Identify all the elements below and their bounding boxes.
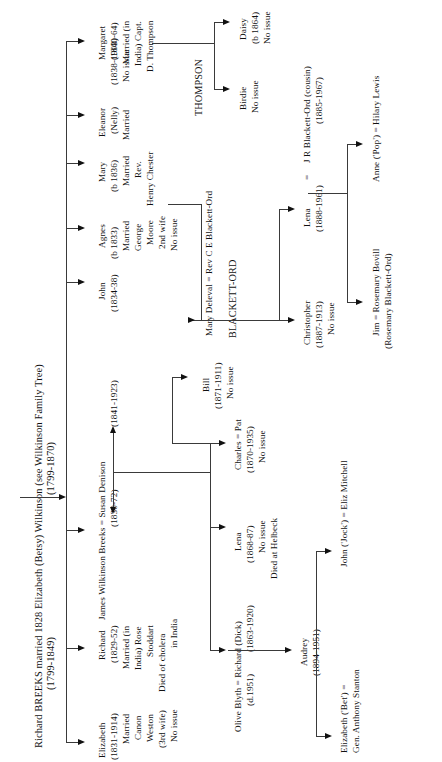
- bill-spine-foot: [172, 443, 210, 444]
- blackett-ord-spine: [279, 209, 280, 321]
- person-birdie-note: No issue: [251, 80, 261, 113]
- person-elizabeth-dates: (1831-1914): [110, 713, 120, 760]
- person-elizabeth-l6: (3rd wife): [158, 710, 168, 748]
- person-richard-dates: (1829-52): [110, 625, 120, 663]
- person-mary-name: Mary: [98, 162, 108, 182]
- arrow-margaret-icon: [78, 38, 85, 44]
- person-richard-l6: Died of cholera: [158, 633, 168, 692]
- person-eleanor-married: Married: [122, 110, 132, 140]
- arrow-lena-bo-icon: [288, 206, 295, 212]
- person-jim-line2: (Rosemary Blackett-Ord): [384, 253, 394, 349]
- person-richard-name: Richard: [98, 630, 108, 660]
- person-margaret-l3: Married (in: [122, 21, 132, 64]
- person-jock-line1: John ('Jock') = Eliz Mitchell: [340, 460, 350, 567]
- person-lena-bo-name: Lena: [303, 208, 313, 227]
- diagram-title: Richard BREEKS married 1828 Elizabeth (B…: [34, 364, 45, 748]
- person-richard-l7: in India: [170, 619, 180, 648]
- person-agnes-l4: George: [134, 224, 144, 251]
- arrow-bill-icon: [181, 374, 188, 380]
- person-olive-dates: (d.1951): [246, 674, 256, 706]
- person-anne-line1: Anne ('Pop') = Hilary Lewis: [372, 76, 382, 182]
- person-richard-l3: Married (in: [122, 626, 132, 669]
- person-lena-name: Lena: [234, 532, 244, 551]
- arrow-birdie-icon: [223, 86, 230, 92]
- person-bill-note: No issue: [226, 366, 236, 399]
- arrow-jock-icon: [325, 548, 332, 554]
- person-agnes-l5: Moore: [146, 220, 156, 245]
- dick-to-audrey: [228, 650, 286, 651]
- person-elizabeth-name: Elizabeth: [98, 722, 108, 758]
- arrow-eleanor-icon: [78, 112, 85, 118]
- person-elizabeth-l5: Weston: [146, 714, 156, 742]
- arrow-anne-icon: [356, 141, 363, 147]
- person-eleanor-alias: (Nelly): [110, 107, 120, 134]
- person-christopher-dates: (1887-1913): [315, 301, 325, 348]
- person-john-dates: (1834-38): [110, 274, 120, 312]
- person-bet-line2: Gen. Anthony Stanton: [352, 669, 362, 753]
- bo-gen4-spine: [347, 144, 348, 302]
- heading-thompson: THOMPSON: [194, 59, 205, 116]
- blackett-ord-feed: [202, 320, 280, 321]
- person-audrey-name: Audrey: [300, 638, 310, 666]
- person-daisy-dates: (b 1864): [251, 12, 261, 44]
- person-charles-note: No issue: [258, 430, 268, 463]
- family-tree-diagram: Richard BREEKS married 1828 Elizabeth (B…: [0, 0, 442, 762]
- arrow-daisy-icon: [223, 19, 230, 25]
- person-richard-l5: Stoddart: [146, 625, 156, 657]
- mary-down-feed: [168, 204, 202, 205]
- margaret-to-thompson: [152, 43, 214, 44]
- arrow-christopher-icon: [288, 317, 295, 323]
- arrow-john-icon: [78, 279, 85, 285]
- person-margaret-l4: India) Capt.: [134, 21, 144, 66]
- person-christopher-note: No issue: [327, 302, 337, 335]
- arrow-james-icon: [78, 527, 85, 533]
- bill-spine: [172, 377, 173, 443]
- person-daisy-name: Daisy: [239, 18, 249, 40]
- person-christopher-name: Christopher: [303, 301, 313, 345]
- person-elizabeth-l7: No issue: [170, 709, 180, 742]
- person-bet-line1: Elizabeth ('Bet') =: [340, 685, 350, 753]
- trunk-feed-arrow-icon: [59, 494, 66, 500]
- arrow-elizabeth-icon: [78, 739, 85, 745]
- arrow-jim-icon: [356, 299, 363, 305]
- person-richard-l4: India) Rose: [134, 626, 144, 670]
- james-union-bracket: [113, 432, 114, 508]
- person-jrbo-dates: (1885-1967): [315, 77, 325, 124]
- heading-blackett-ord: BLACKETT-ORD: [228, 260, 239, 338]
- person-dick-union: Olive Blyth = Richard (Dick): [234, 621, 244, 732]
- arrow-charles-icon: [219, 440, 226, 446]
- james-children-spine: [210, 443, 211, 651]
- person-bill-dates: (1871-1911): [214, 362, 224, 409]
- person-mary-l5: Henry Chester: [146, 151, 156, 206]
- person-mary-dates: (b 1836): [110, 160, 120, 192]
- person-susan-dates: (1841-1923): [110, 380, 120, 427]
- arrow-agnes-icon: [78, 225, 85, 231]
- james-union-arrow-up-icon: [110, 426, 116, 433]
- trunk-feed-line: [20, 497, 60, 498]
- arrow-bet-icon: [325, 733, 332, 739]
- arrow-mary-icon: [78, 160, 85, 166]
- bo-gen4-feed: [308, 193, 348, 194]
- person-bill-name: Bill: [202, 378, 212, 392]
- james-children-feed: [113, 472, 211, 473]
- person-charles-union: Charles = Pat: [234, 419, 244, 470]
- person-jrbo-name: J R Blackett-Ord (cousin): [303, 66, 313, 163]
- person-elizabeth-l4: Canon: [134, 716, 144, 740]
- person-mary-l3: Married: [122, 156, 132, 186]
- person-agnes-dates: (b 1833): [110, 227, 120, 259]
- thompson-spine: [214, 22, 215, 89]
- person-agnes-l6: 2nd wife: [158, 216, 168, 249]
- trunk-spine: [66, 41, 67, 743]
- person-agnes-l3: Married: [122, 221, 132, 251]
- title-wife-dates: (1799-1870): [46, 442, 57, 495]
- person-agnes-l7: No issue: [170, 218, 180, 251]
- person-elizabeth-l3: Married: [122, 714, 132, 744]
- dick-gen4-spine: [316, 551, 317, 736]
- person-lena-dates: (1868-87): [246, 525, 256, 563]
- mary-down-spine: [201, 204, 202, 320]
- person-margaret-l5: D. Thompson: [146, 21, 156, 72]
- arrow-lena-icon: [219, 524, 226, 530]
- person-mary-l4: Rev.: [134, 161, 144, 178]
- person-jim-line1: Jim = Rosemary Bovill: [372, 248, 382, 336]
- arrow-audrey-icon: [285, 647, 292, 653]
